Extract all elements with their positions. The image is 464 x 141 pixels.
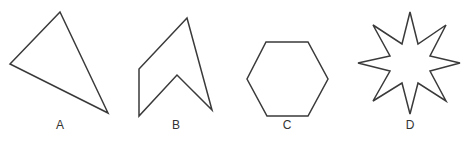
- shape-label-d: D: [406, 118, 415, 132]
- shapes-svg: A B C D: [0, 0, 464, 141]
- shape-label-c: C: [283, 118, 292, 132]
- shape-label-b: B: [172, 118, 180, 132]
- shapes-figure: A B C D: [0, 0, 464, 141]
- star-shape: [358, 12, 460, 114]
- shape-c: C: [247, 42, 328, 132]
- concave-pentagon-shape: [139, 18, 212, 116]
- shape-d: D: [358, 12, 460, 132]
- shape-label-a: A: [56, 118, 64, 132]
- hexagon-shape: [247, 42, 328, 116]
- shape-b: B: [139, 18, 212, 132]
- triangle-shape: [10, 12, 108, 113]
- shape-a: A: [10, 12, 108, 132]
